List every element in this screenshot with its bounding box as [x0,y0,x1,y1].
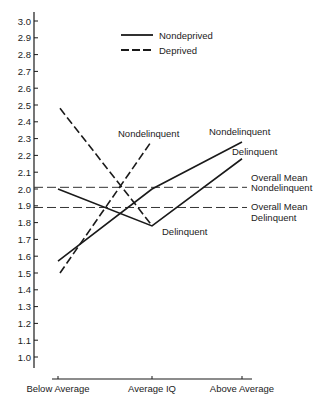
y-tick-label: 1.7 [18,234,31,245]
x-axis: Below AverageAverage IQAbove Average [26,376,274,394]
legend-label: Deprived [159,45,197,56]
y-tick-label: 2.5 [18,100,31,111]
ref-label: Nondelinquent [251,182,313,193]
series-label: Delinquent [232,146,278,157]
y-tick-label: 3.0 [18,16,31,27]
y-tick-label: 1.2 [18,318,31,329]
y-axis: 1.01.11.21.31.41.51.61.71.81.92.02.12.22… [18,12,38,368]
y-tick-label: 2.2 [18,150,31,161]
y-tick-label: 2.4 [18,116,31,127]
y-tick-label: 2.8 [18,49,31,60]
y-tick-label: 1.3 [18,301,31,312]
y-tick-label: 1.0 [18,352,31,363]
y-tick-label: 1.8 [18,217,31,228]
y-tick-label: 2.9 [18,32,31,43]
overall-mean-lines: Overall MeanNondelinquentOverall MeanDel… [34,172,313,223]
series-label: Nondelinquent [209,126,271,137]
ref-label: Overall Mean [251,201,308,212]
legend: NondeprivedDeprived [121,30,213,56]
y-tick-label: 2.6 [18,83,31,94]
y-tick-label: 2.7 [18,66,31,77]
series-label: Delinquent [162,226,208,237]
line-chart: 1.01.11.21.31.41.51.61.71.81.92.02.12.22… [0,0,319,401]
series-line-nondeprived-nondelinquent [58,142,242,261]
y-tick-label: 1.6 [18,251,31,262]
legend-label: Nondeprived [159,30,213,41]
x-tick-label: Below Average [26,383,89,394]
series-label: Nondelinquent [118,128,180,139]
ref-label: Delinquent [251,212,297,223]
x-tick-label: Average IQ [128,383,176,394]
x-tick-label: Above Average [210,383,274,394]
y-tick-label: 2.0 [18,184,31,195]
y-tick-label: 1.1 [18,335,31,346]
y-tick-label: 2.3 [18,133,31,144]
series-line-nondeprived-delinquent [58,159,242,226]
y-tick-label: 1.4 [18,284,31,295]
y-tick-label: 2.1 [18,167,31,178]
y-tick-label: 1.9 [18,200,31,211]
y-tick-label: 1.5 [18,268,31,279]
